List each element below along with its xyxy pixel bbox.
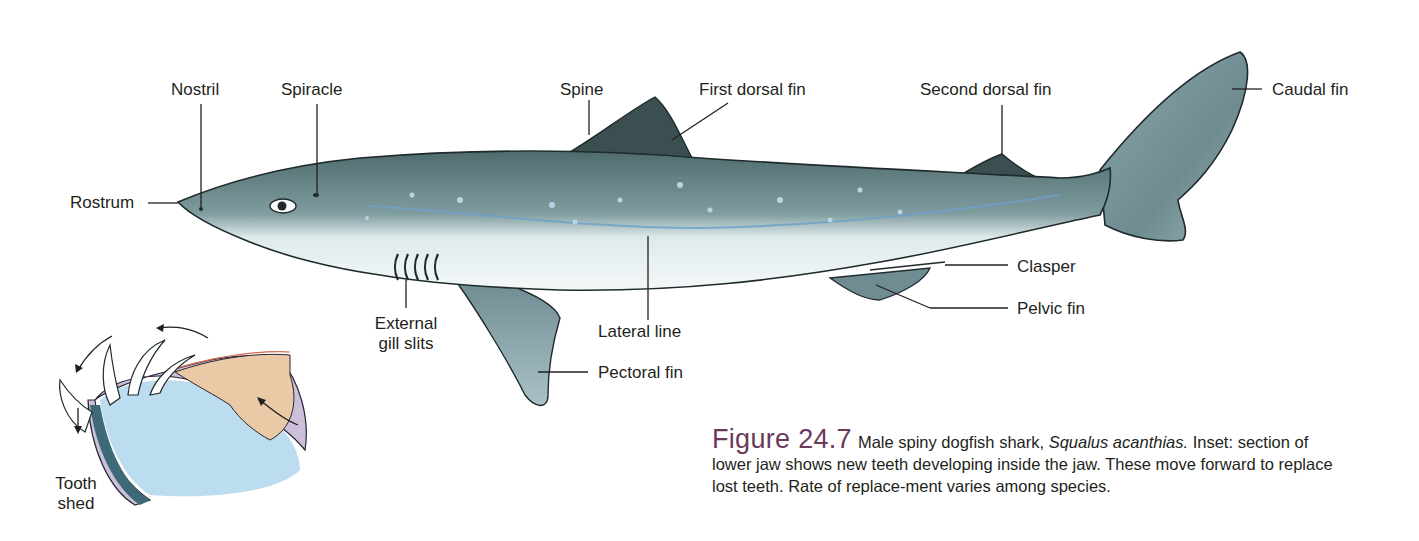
label-spine: Spine — [560, 80, 603, 100]
label-pectoral-fin: Pectoral fin — [598, 363, 683, 383]
spiracle — [313, 193, 319, 197]
label-pelvic-fin: Pelvic fin — [1017, 299, 1085, 319]
label-lateral-line: Lateral line — [598, 322, 681, 342]
caudal-fin — [1100, 52, 1248, 241]
figure-number: Figure 24.7 — [712, 424, 852, 454]
label-line: shed — [46, 494, 106, 514]
label-nostril: Nostril — [171, 80, 219, 100]
pelvic-fin — [830, 268, 930, 300]
species-name: Squalus acanthias. — [1049, 433, 1188, 451]
pectoral-fin — [455, 280, 560, 406]
arrow-head-icon — [75, 364, 83, 373]
label-external-gill-slits: External gill slits — [366, 314, 446, 354]
label-caudal-fin: Caudal fin — [1272, 80, 1349, 100]
label-line: gill slits — [366, 334, 446, 354]
nostril — [199, 207, 203, 211]
label-rostrum: Rostrum — [70, 193, 134, 213]
label-spiracle: Spiracle — [281, 80, 342, 100]
label-line: Tooth — [46, 474, 106, 494]
arrow-head-icon — [156, 324, 164, 332]
label-second-dorsal-fin: Second dorsal fin — [920, 80, 1051, 100]
arrow-head-icon — [74, 426, 82, 434]
label-line: External — [366, 314, 446, 334]
figure-caption: Figure 24.7Male spiny dogfish shark, Squ… — [712, 428, 1352, 497]
label-clasper: Clasper — [1017, 257, 1076, 277]
label-first-dorsal-fin: First dorsal fin — [699, 80, 806, 100]
clasper — [870, 262, 945, 270]
label-tooth-shed: Tooth shed — [46, 474, 106, 514]
caption-lead: Male spiny dogfish shark, — [858, 433, 1049, 451]
